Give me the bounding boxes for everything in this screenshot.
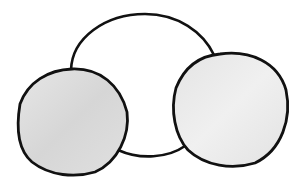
molecule-diagram bbox=[0, 0, 307, 184]
left-atom-circle bbox=[18, 69, 127, 175]
right-atom-circle bbox=[173, 53, 287, 166]
